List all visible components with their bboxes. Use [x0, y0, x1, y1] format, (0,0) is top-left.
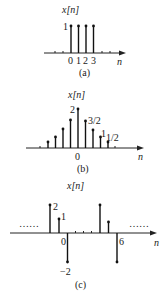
plot-a-caption: (a): [79, 67, 90, 79]
signal-figures: x[n] 1 0 1 2 3 n (a) x[n]: [0, 0, 168, 295]
plot-b-ylabel: x[n]: [67, 89, 85, 100]
plot-b: x[n] 2 3/2 1 1/2 0 n (b): [26, 89, 144, 175]
plot-a-stems: [71, 26, 94, 53]
plot-a-axis-arrow-icon: [119, 51, 126, 56]
plot-c-label-2: 2: [53, 201, 58, 212]
plot-c-origin-label: 0: [61, 236, 66, 247]
plot-b-label-2: 2: [70, 104, 75, 115]
plot-b-xlabel: n: [138, 151, 143, 162]
plot-b-caption: (b): [77, 163, 89, 175]
plot-c-ylabel: x[n]: [66, 180, 84, 191]
plot-c-xlabel: n: [154, 237, 159, 248]
plot-a-tick-3: 3: [91, 55, 96, 66]
plot-c-period-label: 6: [119, 236, 124, 247]
plot-a-tick-1: 1: [76, 55, 81, 66]
plot-b-axis-arrow-icon: [137, 146, 144, 151]
plot-b-label-1-2: 1/2: [106, 132, 119, 143]
plot-c-label-1: 1: [61, 211, 66, 222]
plot-a-value-label: 1: [63, 21, 68, 32]
plot-a-stem-dots: [70, 25, 95, 28]
plot-c: x[n] …… …… 2 1 0 −2 6 n (c): [10, 180, 159, 291]
plot-a-xlabel: n: [117, 56, 122, 67]
plot-c-ellipsis-right: ……: [129, 218, 149, 229]
plot-c-axis-arrow-icon: [150, 231, 157, 236]
plot-b-origin-label: 0: [75, 151, 80, 162]
plot-a-tick-2: 2: [83, 55, 88, 66]
plot-c-caption: (c): [75, 279, 86, 291]
plot-c-ellipsis-left: ……: [19, 218, 39, 229]
plot-c-label-neg2: −2: [60, 266, 71, 277]
plot-b-label-3-2: 3/2: [88, 115, 101, 126]
plot-a-tick-0: 0: [68, 55, 73, 66]
plot-a-ylabel: x[n]: [61, 4, 79, 15]
plot-a: x[n] 1 0 1 2 3 n (a): [44, 4, 126, 79]
